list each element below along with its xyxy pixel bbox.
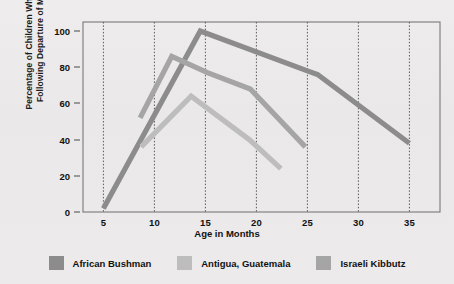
legend-item-label: Antigua, Guatemala bbox=[201, 258, 290, 269]
legend-swatch-israeli-kibbutz bbox=[316, 256, 331, 270]
chart-figure: Percentage of Children Who Cried Followi… bbox=[0, 0, 454, 284]
chart-legend: African BushmanAntigua, GuatemalaIsraeli… bbox=[0, 256, 454, 270]
legend-swatch-african-bushman bbox=[49, 256, 64, 270]
x-axis-title: Age in Months bbox=[0, 228, 454, 239]
legend-item-label: African Bushman bbox=[73, 258, 152, 269]
plot-area bbox=[0, 0, 454, 284]
legend-item[interactable]: Antigua, Guatemala bbox=[177, 256, 290, 270]
legend-item-label: Israeli Kibbutz bbox=[340, 258, 405, 269]
legend-swatch-antigua-guatemala bbox=[177, 256, 192, 270]
plot-frame bbox=[83, 22, 440, 212]
series-line-antigua-guatemala bbox=[141, 96, 281, 168]
series-line-israeli-kibbutz bbox=[140, 56, 305, 146]
legend-item[interactable]: Israeli Kibbutz bbox=[316, 256, 405, 270]
legend-item[interactable]: African Bushman bbox=[49, 256, 152, 270]
